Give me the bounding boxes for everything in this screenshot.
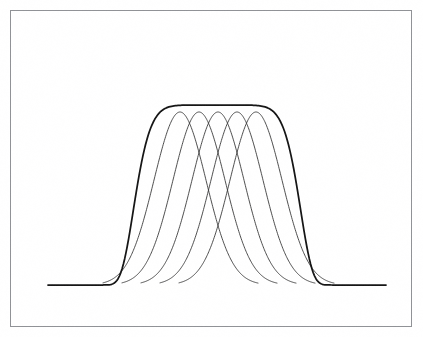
plot-svg — [0, 0, 423, 337]
plot-background — [0, 0, 423, 337]
figure-canvas — [0, 0, 423, 337]
